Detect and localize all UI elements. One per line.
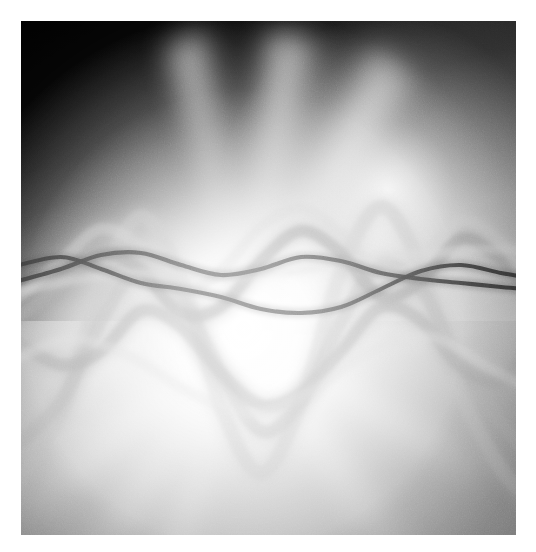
grain-overlay bbox=[21, 21, 516, 535]
waveform-illustration bbox=[21, 21, 516, 535]
artwork-page: Abstract Waveform Composition grayscale … bbox=[0, 0, 536, 552]
artwork-canvas bbox=[21, 21, 516, 535]
